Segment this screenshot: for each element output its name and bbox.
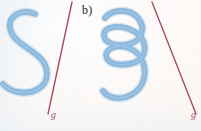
axis-label-g-left: g [51,110,56,120]
figure-canvas: b) g g [0,0,201,131]
s-curve-highlight [3,12,47,93]
coil-curve-group [103,11,145,98]
s-curve-group [3,12,47,93]
panel-label-b: b) [82,4,92,16]
figure-vector-layer [0,0,201,131]
g-line-right [152,2,196,114]
axis-label-g-right: g [191,110,196,120]
g-line-left [48,2,72,114]
